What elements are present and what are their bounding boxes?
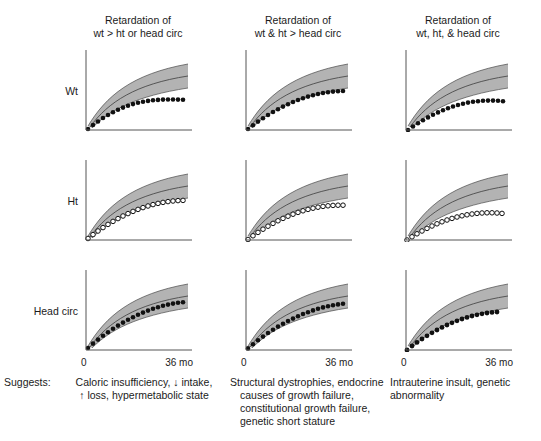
x-axis-start-label-col2: 0 <box>241 357 281 369</box>
panel-svg <box>244 160 352 242</box>
panel-col1-head-circ <box>84 270 192 352</box>
column-title-1: Retardation of wt > ht or head circ <box>66 14 210 40</box>
panel-svg <box>84 160 192 242</box>
panel-svg <box>404 270 512 352</box>
panel-svg <box>244 50 352 132</box>
x-axis-end-label-col2: 36 mo <box>305 357 353 369</box>
growth-chart-figure: Retardation of wt > ht or head circ Reta… <box>0 0 541 441</box>
column-title-2: Retardation of wt & ht > head circ <box>226 14 370 40</box>
row-label-ht: Ht <box>10 195 78 208</box>
panel-svg <box>404 50 512 132</box>
panel-svg <box>84 270 192 352</box>
panel-col2-wt <box>244 50 352 132</box>
panel-col1-ht <box>84 160 192 242</box>
caption-col1: Caloric insufficiency, ↓ intake, ↑ loss,… <box>66 376 222 402</box>
panel-col3-ht <box>404 160 512 242</box>
caption-col2: Structural dystrophies, endocrine causes… <box>230 376 396 428</box>
panel-col3-head-circ <box>404 270 512 352</box>
column-title-3: Retardation of wt, ht, & head circ <box>386 14 530 40</box>
x-axis-start-label-col3: 0 <box>401 357 441 369</box>
panel-col3-wt <box>404 50 512 132</box>
x-axis-end-label-col1: 36 mo <box>145 357 193 369</box>
row-label-head-circ: Head circ <box>10 305 78 318</box>
panel-col1-wt <box>84 50 192 132</box>
panel-svg <box>404 160 512 242</box>
panel-svg <box>84 50 192 132</box>
x-axis-end-label-col3: 36 mo <box>465 357 513 369</box>
panel-svg <box>244 270 352 352</box>
caption-col3: Intrauterine insult, genetic abnormality <box>390 376 540 402</box>
panel-col2-ht <box>244 160 352 242</box>
x-axis-start-label-col1: 0 <box>81 357 121 369</box>
row-label-wt: Wt <box>10 85 78 98</box>
panel-col2-head-circ <box>244 270 352 352</box>
